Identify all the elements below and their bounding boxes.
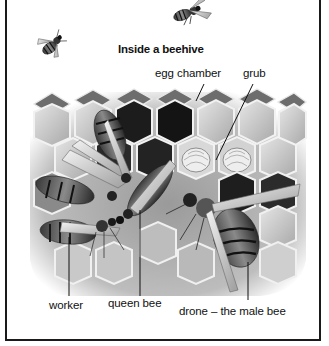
label-drone: drone – the male bee	[179, 305, 286, 317]
label-egg-chamber: egg chamber	[155, 67, 221, 79]
flying-bee-top-icon	[170, 0, 212, 29]
label-grub: grub	[243, 67, 266, 79]
honeycomb	[30, 89, 306, 296]
label-queen-bee: queen bee	[108, 297, 161, 309]
figure-title: Inside a beehive	[118, 43, 204, 55]
label-worker: worker	[49, 299, 83, 311]
flying-bee-left-icon	[35, 26, 71, 62]
